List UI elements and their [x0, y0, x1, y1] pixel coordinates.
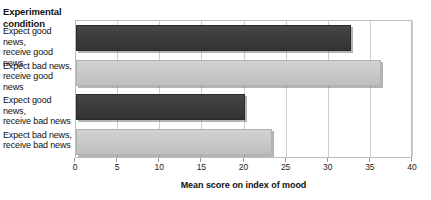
category-label-line: Expect good news, — [3, 26, 75, 47]
axis-group-title-line: Experimental — [3, 6, 81, 18]
bar-row — [76, 94, 413, 120]
x-tick-label-25: 25 — [273, 162, 299, 172]
category-label-line: receive bad news — [3, 116, 75, 127]
category-label-line: Expect bad news, — [3, 61, 75, 72]
bar-3[interactable] — [76, 94, 245, 120]
x-tick-label-5: 5 — [104, 162, 130, 172]
x-axis-title: Mean score on index of mood — [75, 180, 412, 190]
category-label-line: Expect good news, — [3, 95, 75, 116]
bar-row — [76, 60, 413, 86]
x-tick-label-15: 15 — [188, 162, 214, 172]
x-tick-label-35: 35 — [357, 162, 383, 172]
bar-row — [76, 129, 413, 155]
bar-1[interactable] — [76, 25, 351, 51]
x-tick-label-20: 20 — [231, 162, 257, 172]
bar-row — [76, 25, 413, 51]
category-label-line: receive bad news — [3, 140, 75, 151]
bar-4[interactable] — [76, 129, 272, 155]
category-label-line: Expect bad news, — [3, 130, 75, 141]
category-label-3: Expect good news,receive bad news — [3, 95, 75, 127]
category-label-line: receive good news — [3, 71, 75, 92]
category-label-2: Expect bad news,receive good news — [3, 61, 75, 93]
x-tick-label-0: 0 — [62, 162, 88, 172]
x-tick-label-30: 30 — [315, 162, 341, 172]
x-tick-label-10: 10 — [146, 162, 172, 172]
x-tick-label-40: 40 — [399, 162, 425, 172]
bar-2[interactable] — [76, 60, 381, 86]
category-label-4: Expect bad news,receive bad news — [3, 130, 75, 151]
chart-plot-area — [75, 20, 412, 158]
